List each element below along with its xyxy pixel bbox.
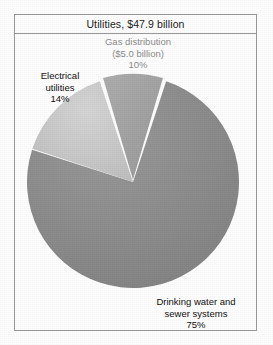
label-gas-line1: Gas distribution <box>83 36 193 48</box>
label-gas-distribution: Gas distribution ($5.0 billion) 10% <box>83 36 193 71</box>
chart-title: Utilities, $47.9 billion <box>86 19 184 30</box>
label-electrical-line2: utilities <box>14 82 106 94</box>
pie-chart-figure: Utilities, $47.9 billion <box>0 0 273 345</box>
label-gas-line2: ($5.0 billion) <box>83 48 193 60</box>
label-electrical-line1: Electrical <box>14 70 106 82</box>
label-water-line1: Drinking water and <box>140 296 252 308</box>
chart-title-box: Utilities, $47.9 billion <box>15 15 256 34</box>
label-drinking-water-sewer: Drinking water and sewer systems 75% <box>140 296 252 331</box>
label-electrical-utilities: Electrical utilities 14% <box>14 70 106 105</box>
label-water-line3: 75% <box>140 319 252 331</box>
label-gas-line3: 10% <box>83 59 193 71</box>
label-water-line2: sewer systems <box>140 308 252 320</box>
label-electrical-line3: 14% <box>14 93 106 105</box>
